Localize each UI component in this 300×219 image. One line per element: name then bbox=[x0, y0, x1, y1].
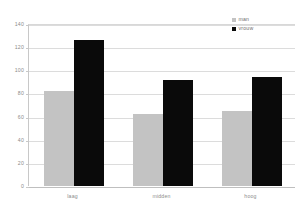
bar-man-hoog[interactable] bbox=[222, 111, 252, 186]
y-tick-mark bbox=[26, 187, 29, 188]
y-tick-label: 120 bbox=[0, 44, 24, 50]
bar-man-midden[interactable] bbox=[133, 114, 163, 186]
chart-legend: manvrouw bbox=[232, 16, 253, 32]
legend-item-man[interactable]: man bbox=[232, 16, 253, 23]
bar-vrouw-midden[interactable] bbox=[163, 80, 193, 186]
bar-chart: manvrouw 020406080100120140laagmiddenhoo… bbox=[0, 0, 300, 219]
bar-group bbox=[118, 25, 207, 186]
plot-area bbox=[28, 24, 295, 186]
y-tick-label: 100 bbox=[0, 67, 24, 73]
y-tick-label: 20 bbox=[0, 160, 24, 166]
bar-man-laag[interactable] bbox=[44, 91, 74, 186]
bar-vrouw-laag[interactable] bbox=[74, 40, 104, 186]
legend-label-man: man bbox=[239, 17, 250, 22]
y-tick-label: 40 bbox=[0, 137, 24, 143]
legend-swatch-vrouw bbox=[232, 27, 236, 31]
bar-group bbox=[29, 25, 118, 186]
legend-item-vrouw[interactable]: vrouw bbox=[232, 25, 253, 32]
legend-swatch-man bbox=[232, 18, 236, 22]
x-tick-label-midden: midden bbox=[152, 193, 170, 199]
gridline bbox=[29, 187, 295, 188]
y-tick-label: 60 bbox=[0, 114, 24, 120]
y-tick-label: 0 bbox=[0, 183, 24, 189]
bar-group bbox=[207, 25, 296, 186]
x-tick-label-hoog: hoog bbox=[244, 193, 256, 199]
y-tick-label: 80 bbox=[0, 90, 24, 96]
bar-vrouw-hoog[interactable] bbox=[252, 77, 282, 186]
x-tick-label-laag: laag bbox=[67, 193, 78, 199]
y-tick-label: 140 bbox=[0, 21, 24, 27]
legend-label-vrouw: vrouw bbox=[239, 26, 254, 31]
